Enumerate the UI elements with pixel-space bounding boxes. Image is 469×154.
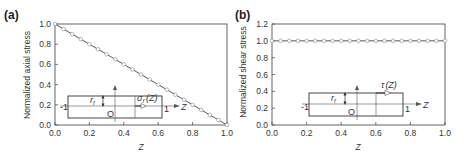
data-point-marker	[296, 39, 300, 43]
x-tick-label: 0.2	[83, 128, 95, 138]
x-tick-label: 0.0	[49, 128, 61, 138]
z-axis-arrow-icon	[174, 104, 180, 108]
data-point-marker	[339, 39, 343, 43]
data-point-marker	[105, 53, 109, 57]
inset-fiber-rect-b	[309, 93, 403, 116]
data-point-marker	[374, 39, 378, 43]
data-point-marker	[426, 39, 430, 43]
y-tick-label: 0.2	[256, 103, 268, 113]
data-point-marker	[348, 39, 352, 43]
x-tick-label: 0.8	[187, 128, 199, 138]
data-point-marker	[139, 73, 143, 77]
data-point-marker	[217, 118, 221, 122]
x-tick-label: 0.4	[335, 128, 347, 138]
x-axis-ticks-a: 0.00.20.40.60.81.0	[49, 122, 233, 138]
data-point-marker	[443, 39, 447, 43]
figure: (a) 0.00.20.40.60.81.0 0.00.20.40.60.81.…	[0, 0, 469, 154]
data-point-marker	[70, 32, 74, 36]
x-axis-ticks-b: 0.00.20.40.60.81.0	[266, 122, 451, 138]
inset-z-label-a: Z	[180, 102, 187, 112]
panel-b-label: (b)	[235, 8, 250, 22]
inset-origin-a: O	[107, 109, 114, 119]
data-point-marker	[208, 113, 212, 117]
data-point-marker	[182, 98, 186, 102]
panel-a-label: (a)	[4, 8, 19, 22]
data-point-marker	[62, 27, 66, 31]
data-point-marker	[79, 37, 83, 41]
y-tick-label: 0.8	[39, 39, 51, 49]
panel-b-shear-stress: (b) 0.00.20.40.60.81.01.2 0.00.20.40.60.…	[235, 8, 451, 152]
tau-arrow-icon	[385, 91, 391, 96]
x-axis-title-a: Z	[137, 142, 144, 152]
series-axial-stress	[53, 22, 229, 127]
data-point-marker	[270, 39, 274, 43]
data-point-marker	[165, 88, 169, 92]
data-point-marker	[174, 93, 178, 97]
data-point-marker	[122, 63, 126, 67]
data-point-marker	[365, 39, 369, 43]
inset-origin-b: O	[348, 107, 355, 117]
x-tick-label: 1.0	[221, 128, 233, 138]
y-tick-label: 1.2	[256, 19, 268, 29]
y-tick-label: 1.0	[256, 36, 268, 46]
vertical-axis-arrow-icon	[355, 85, 359, 90]
y-tick-label: 0.2	[39, 100, 51, 110]
inset-z-label-b: Z	[422, 100, 429, 110]
y-tick-label: 0.6	[39, 59, 51, 69]
data-point-marker	[313, 39, 317, 43]
vertical-axis-arrow-icon	[113, 85, 117, 90]
data-point-marker	[225, 123, 229, 127]
data-point-marker	[391, 39, 395, 43]
x-tick-label: 0.0	[266, 128, 278, 138]
inset-right-a: 1	[164, 104, 169, 114]
inset-sigma-label: σf(Z)	[137, 93, 158, 104]
data-point-marker	[88, 42, 92, 46]
inset-diagram-b: rf τ(Z) O -1 1 Z	[301, 80, 429, 120]
x-tick-label: 0.6	[370, 128, 382, 138]
data-point-marker	[148, 78, 152, 82]
data-point-marker	[383, 39, 387, 43]
y-tick-label: 1.0	[39, 19, 51, 29]
inset-r-label-a: rf	[90, 95, 96, 106]
data-point-marker	[131, 68, 135, 72]
data-point-marker	[435, 39, 439, 43]
data-point-marker	[400, 39, 404, 43]
data-point-marker	[191, 103, 195, 107]
z-axis-arrow-icon	[416, 102, 422, 106]
inset-tau-label: τ(Z)	[381, 80, 397, 90]
data-point-marker	[357, 39, 361, 43]
sigma-arrow-icon	[141, 104, 146, 109]
y-axis-title-b: Normalized shear stress	[238, 26, 248, 118]
data-point-marker	[305, 39, 309, 43]
data-point-marker	[417, 39, 421, 43]
x-tick-label: 0.4	[118, 128, 130, 138]
x-tick-label: 0.8	[404, 128, 416, 138]
x-tick-label: 0.6	[152, 128, 164, 138]
x-tick-label: 0.2	[301, 128, 313, 138]
data-point-marker	[322, 39, 326, 43]
inset-left-b: -1	[301, 102, 309, 112]
inset-r-label-b: rf	[331, 93, 337, 104]
y-tick-label: 0.6	[256, 70, 268, 80]
data-point-marker	[156, 83, 160, 87]
data-point-marker	[331, 39, 335, 43]
series-shear-stress	[270, 39, 447, 43]
data-point-marker	[279, 39, 283, 43]
x-axis-title-b: Z	[354, 142, 361, 152]
data-point-marker	[409, 39, 413, 43]
inset-left-a: -1	[60, 102, 68, 112]
y-axis-title-a: Normalized axial stress	[22, 31, 32, 119]
inset-right-b: 1	[405, 104, 410, 114]
x-tick-label: 1.0	[439, 128, 451, 138]
y-tick-label: 0.8	[256, 53, 268, 63]
data-point-marker	[96, 47, 100, 51]
y-tick-label: 0.4	[39, 80, 51, 90]
data-point-marker	[53, 22, 57, 26]
panel-a-axial-stress: (a) 0.00.20.40.60.81.0 0.00.20.40.60.81.…	[4, 8, 233, 152]
data-point-marker	[199, 108, 203, 112]
data-point-marker	[113, 58, 117, 62]
data-point-marker	[288, 39, 292, 43]
y-tick-label: 0.4	[256, 86, 268, 96]
